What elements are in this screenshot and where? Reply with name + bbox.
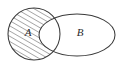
set-a-label: A <box>24 26 32 38</box>
venn-diagram-canvas: A B <box>0 0 123 68</box>
set-b-label: B <box>77 26 84 38</box>
shaded-region-a-minus-b <box>0 0 123 68</box>
hatch-fill-a-only <box>0 0 123 68</box>
venn-diagram-figure: A B <box>0 0 123 68</box>
